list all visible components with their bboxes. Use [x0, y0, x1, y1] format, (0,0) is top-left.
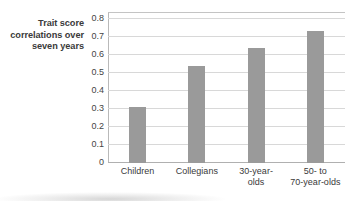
bar	[307, 31, 324, 163]
bar-series	[108, 12, 345, 163]
y-axis-tick-label: 0.6	[82, 50, 104, 59]
x-axis-tick-labels: ChildrenCollegians30-year- olds50- to 70…	[108, 166, 345, 200]
plot-area	[108, 12, 345, 163]
y-axis-title-line-1: Trait score	[4, 18, 84, 30]
y-axis-tick-label: 0.7	[82, 32, 104, 41]
bar	[188, 66, 205, 163]
y-axis-title-line-2: correlations over	[4, 30, 84, 42]
bar	[129, 107, 146, 163]
x-axis-tick-label: 50- to 70-year-olds	[280, 166, 349, 188]
y-axis-title: Trait score correlations over seven year…	[4, 18, 84, 53]
y-axis-tick-label: 0.4	[82, 86, 104, 95]
y-axis-tick-label: 0.3	[82, 104, 104, 113]
bar	[248, 48, 265, 163]
y-axis-title-line-3: seven years	[4, 41, 84, 53]
y-axis-tick-label: 0.1	[82, 140, 104, 149]
y-axis-tick-label: 0.8	[82, 14, 104, 23]
bar-chart-figure: Trait score correlations over seven year…	[0, 0, 349, 201]
y-axis-tick-label: 0.5	[82, 68, 104, 77]
y-axis-tick-label: 0	[82, 158, 104, 167]
y-axis-tick-labels: 00.10.20.30.40.50.60.70.8	[80, 12, 104, 163]
y-axis-tick-label: 0.2	[82, 122, 104, 131]
